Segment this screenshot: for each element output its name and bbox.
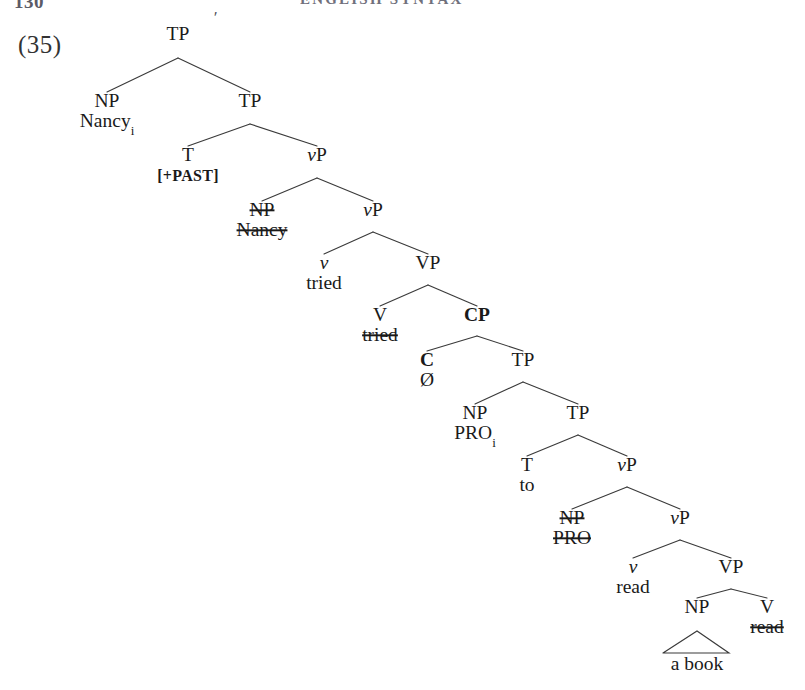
tree-gloss-np-trace-2: PRO <box>553 527 591 548</box>
tree-branch <box>380 285 428 306</box>
tree-branch <box>373 232 428 254</box>
tree-node-cp: CP <box>464 304 490 325</box>
tree-node-vp-2: vP <box>363 199 383 220</box>
tree-node-tp-4: TP <box>567 402 590 423</box>
tree-gloss-v-tried: tried <box>306 272 342 293</box>
tree-node-np-trace-2: NP <box>560 507 585 528</box>
tree-branch <box>578 435 627 456</box>
tree-node-vp-4: vP <box>670 507 690 528</box>
tree-node-np-trace-1: NP <box>250 199 275 220</box>
triangle-a-book <box>663 631 729 653</box>
tree-branch <box>188 124 250 146</box>
tree-node-tp-3: TP <box>512 349 535 370</box>
tree-node-tp-2: TP <box>239 90 262 111</box>
tree-branch <box>250 124 317 146</box>
tree-node-v-trace: V <box>373 304 387 325</box>
tree-node-v-read-trace: V <box>760 596 774 617</box>
tree-branch <box>324 232 373 254</box>
tree-node-np-pro: NP <box>463 402 488 423</box>
tree-branch <box>523 382 578 404</box>
tree-branch <box>262 178 317 201</box>
tree-gloss-v-read: read <box>616 576 650 597</box>
tree-branch <box>107 58 178 92</box>
tree-branch <box>475 382 523 404</box>
page-canvas: 130 ENGLISH SYNTAX ' (35) a bookTPNPNanc… <box>0 0 805 690</box>
tree-branch <box>572 487 627 509</box>
syntax-tree-diagram: a bookTPNPNancyiTPT[+PAST]vPNPNancyvPvtr… <box>0 0 805 690</box>
tree-node-t-to: T <box>521 454 533 475</box>
tree-node-vp-1: vP <box>307 144 327 165</box>
tree-node-np-book: NP <box>685 596 710 617</box>
tree-branch <box>427 336 477 351</box>
tree-gloss-np-trace-1: Nancy <box>237 219 288 240</box>
tree-branch <box>178 58 250 92</box>
tree-node-t-past: T <box>182 144 194 165</box>
tree-gloss-t-past: [+PAST] <box>157 167 219 184</box>
tree-triangle-layer <box>663 631 729 653</box>
tree-branch <box>633 540 680 558</box>
tree-terminal-gloss: a book <box>671 653 724 674</box>
tree-node-c-null: C <box>420 349 434 370</box>
tree-gloss-v-read-trace: read <box>750 616 784 637</box>
tree-label-layer: a bookTPNPNancyiTPT[+PAST]vPNPNancyvPvtr… <box>80 23 784 674</box>
tree-branch <box>428 285 477 306</box>
tree-node-vp-read: VP <box>719 556 744 577</box>
tree-gloss-t-to: to <box>519 474 534 495</box>
tree-node-vp-3: vP <box>617 454 637 475</box>
tree-gloss-np-pro: PROi <box>454 422 496 450</box>
tree-gloss-c-null: Ø <box>420 369 434 390</box>
tree-branch <box>527 435 578 456</box>
tree-node-vp-big: VP <box>416 252 441 273</box>
tree-node-v-tried: v <box>320 252 329 273</box>
tree-gloss-v-trace: tried <box>362 324 398 345</box>
tree-branch <box>317 178 373 201</box>
tree-node-v-read: v <box>629 556 638 577</box>
tree-branch-layer <box>107 58 767 598</box>
tree-node-np-subj: NP <box>95 90 120 111</box>
tree-node-tp-root: TP <box>167 23 190 44</box>
tree-branch <box>627 487 680 509</box>
tree-gloss-np-subj: Nancyi <box>80 110 135 138</box>
